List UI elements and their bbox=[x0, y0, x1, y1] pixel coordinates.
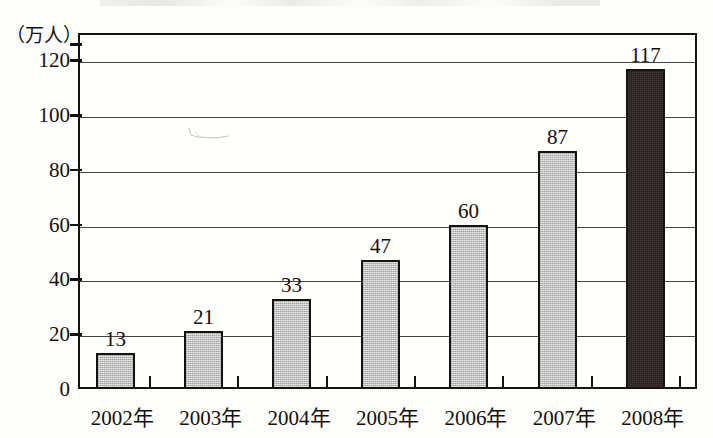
y-axis-tick-label: 0 bbox=[8, 377, 70, 402]
x-axis-tick-label: 2006年 bbox=[426, 401, 526, 431]
bar bbox=[449, 225, 488, 389]
bar bbox=[96, 353, 135, 389]
bar bbox=[184, 331, 223, 389]
bar bbox=[361, 260, 400, 389]
x-axis-tick bbox=[237, 376, 239, 389]
x-axis-tick bbox=[591, 376, 593, 389]
bar bbox=[538, 151, 577, 389]
gridline bbox=[80, 227, 695, 228]
x-axis-tick-label: 2005年 bbox=[337, 401, 437, 431]
bar-value-label: 60 bbox=[429, 199, 508, 224]
x-axis-tick bbox=[326, 376, 328, 389]
y-axis-tick bbox=[70, 43, 82, 46]
y-axis-tick-label: 20 bbox=[8, 322, 70, 347]
chart-screenshot: （万人） 020406080100120 132002年212003年33200… bbox=[0, 0, 713, 438]
y-axis-tick bbox=[70, 169, 82, 172]
gridline bbox=[80, 172, 695, 173]
gridline bbox=[80, 117, 695, 118]
y-axis-tick bbox=[70, 114, 82, 117]
x-axis-tick bbox=[149, 376, 151, 389]
bar-value-label: 117 bbox=[606, 43, 685, 68]
x-axis-tick bbox=[414, 376, 416, 389]
x-axis-tick-label: 2002年 bbox=[72, 401, 172, 431]
scan-artifact-top-text bbox=[100, 0, 600, 6]
y-axis-tick bbox=[70, 59, 82, 62]
y-axis-tick-labels: 020406080100120 bbox=[0, 0, 70, 438]
x-axis-tick-label: 2003年 bbox=[160, 401, 260, 431]
y-axis-tick-label: 80 bbox=[8, 157, 70, 182]
bar-value-label: 21 bbox=[164, 305, 243, 330]
y-axis-tick-label: 120 bbox=[8, 48, 70, 73]
bar bbox=[626, 69, 665, 389]
bar-value-label: 47 bbox=[341, 234, 420, 259]
y-axis-tick-label: 100 bbox=[8, 103, 70, 128]
bar-value-label: 33 bbox=[252, 273, 331, 298]
gridline bbox=[80, 62, 695, 63]
y-axis-tick-label: 40 bbox=[8, 267, 70, 292]
y-axis-tick-label: 60 bbox=[8, 212, 70, 237]
x-axis-tick bbox=[502, 376, 504, 389]
x-axis-tick-label: 2007年 bbox=[514, 401, 614, 431]
bar-value-label: 13 bbox=[76, 327, 155, 352]
y-axis-tick bbox=[70, 224, 82, 227]
x-axis-tick-label: 2004年 bbox=[249, 401, 349, 431]
y-axis-tick bbox=[70, 278, 82, 281]
bar bbox=[272, 299, 311, 389]
x-axis-tick bbox=[679, 376, 681, 389]
bar-value-label: 87 bbox=[518, 125, 597, 150]
x-axis-tick-label: 2008年 bbox=[603, 401, 703, 431]
